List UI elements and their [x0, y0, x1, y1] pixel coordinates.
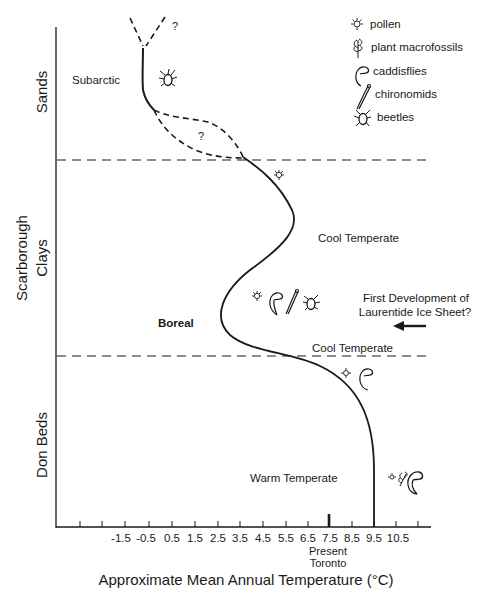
caddisfly-icon [270, 293, 283, 315]
pollen-icon [388, 473, 396, 479]
unit-sands: Sands [33, 71, 50, 114]
question-mark: ? [172, 20, 178, 32]
laurentide-annotation-line2: Laurentide Ice Sheet? [359, 306, 472, 318]
tick-label: 10.5 [387, 532, 409, 544]
pollen-icon [274, 170, 284, 180]
tick-label: 8.5 [344, 532, 360, 544]
present-label: Present [309, 545, 347, 557]
tick-label: 5.5 [278, 532, 294, 544]
beetle-icon [159, 69, 177, 86]
legend-label: chironomids [375, 88, 437, 100]
tick-label: -0.5 [136, 532, 156, 544]
unit-scarborough: Scarborough [13, 215, 30, 301]
legend-label: beetles [377, 111, 414, 123]
tick-label: 2.5 [210, 532, 226, 544]
paleoclimate-chart: -1.5 -0.5 0.5 1.5 2.5 3.5 4.5 5.5 6.5 7.… [0, 0, 495, 602]
uncertain-branch-top-left [130, 18, 143, 46]
zone-warm-temperate: Warm Temperate [250, 472, 338, 484]
pollen-icon [341, 368, 351, 378]
plant-macrofossil-icon [354, 39, 362, 58]
zone-boreal: Boreal [158, 317, 194, 329]
legend-item-caddisflies: caddisflies [356, 65, 427, 86]
beetle-icon [303, 295, 320, 310]
tick-label: 9.5 [366, 532, 382, 544]
legend-item-plant-macrofossils: plant macrofossils [354, 39, 463, 58]
legend-item-pollen: pollen [351, 18, 401, 30]
chironomid-icon [357, 85, 371, 110]
question-mark: ? [198, 130, 204, 142]
tick-label: 6.5 [300, 532, 316, 544]
zone-subarctic: Subarctic [72, 74, 120, 86]
caddisfly-icon [360, 369, 373, 390]
plant-macrofossil-icon [399, 472, 407, 486]
legend-item-chironomids: chironomids [357, 85, 437, 110]
uncertain-branch-top-right [146, 17, 165, 46]
zone-cool-temperate-upper: Cool Temperate [318, 232, 399, 244]
left-arrow-icon [393, 321, 426, 331]
beetle-icon [354, 110, 371, 126]
zone-cool-temperate-lower: Cool Temperate [312, 342, 393, 354]
unit-clays: Clays [33, 239, 50, 277]
legend: pollen plant macrofossils caddisflies [351, 18, 463, 126]
legend-label: pollen [370, 18, 401, 30]
temperature-curve-upper [143, 48, 154, 110]
tick-label: 1.5 [187, 532, 203, 544]
pollen-icon [351, 18, 363, 30]
pollen-icon [252, 291, 262, 301]
caddisfly-icon [408, 472, 423, 494]
tick-label: 7.5 [322, 532, 338, 544]
chironomid-icon [286, 290, 299, 315]
x-tick-labels: -1.5 -0.5 0.5 1.5 2.5 3.5 4.5 5.5 6.5 7.… [111, 532, 409, 544]
tick-label: -1.5 [111, 532, 131, 544]
caddisfly-icon [356, 67, 369, 86]
legend-label: caddisflies [373, 65, 427, 77]
unit-don-beds: Don Beds [33, 412, 50, 478]
x-ticks [80, 521, 418, 527]
x-axis-title: Approximate Mean Annual Temperature (°C) [98, 571, 393, 588]
tick-label: 4.5 [255, 532, 271, 544]
tick-label: 0.5 [164, 532, 180, 544]
legend-label: plant macrofossils [371, 41, 463, 53]
legend-item-beetles: beetles [354, 110, 414, 126]
toronto-label: Toronto [310, 557, 347, 569]
tick-label: 3.5 [232, 532, 248, 544]
laurentide-annotation-line1: First Development of [363, 292, 470, 304]
